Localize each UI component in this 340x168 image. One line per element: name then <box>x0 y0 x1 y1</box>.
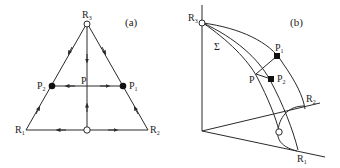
stable-point-p2-icon <box>49 83 56 90</box>
label-b-r1: R1 <box>297 153 307 165</box>
label-b-p1: P1 <box>275 42 284 54</box>
stable-point-p1-icon <box>274 53 280 59</box>
panel-a: R3 R1 R2 P P1 P2 (a) <box>15 9 160 136</box>
stable-point-p2-icon <box>268 76 274 82</box>
unstable-point-r3-icon <box>84 21 90 27</box>
segment-p-p1 <box>256 56 277 74</box>
label-a-r3: R3 <box>82 9 92 21</box>
label-a-r2: R2 <box>150 124 160 136</box>
axis-r1 <box>202 131 325 157</box>
label-b-p: P <box>249 74 255 85</box>
panel-b: R3 Σ P1 P2 P R2 R1 (b) <box>188 5 325 165</box>
arc-sigma <box>203 23 279 131</box>
unstable-point-bottom-icon <box>276 129 282 135</box>
label-b-r2: R2 <box>306 93 316 105</box>
panel-a-label: (a) <box>125 16 138 29</box>
unstable-point-r3-icon <box>199 20 205 26</box>
panel-b-label: (b) <box>290 16 303 29</box>
stable-point-p1-icon <box>120 83 127 90</box>
unstable-point-bottom-icon <box>84 127 90 133</box>
label-b-r3: R3 <box>188 12 198 24</box>
curve-r2-r1 <box>278 106 304 151</box>
label-a-p: P <box>81 75 87 86</box>
edge-r3-r1 <box>26 23 87 130</box>
arc-outer <box>203 23 305 109</box>
label-b-p2: P2 <box>277 73 286 85</box>
label-a-r1: R1 <box>15 124 25 136</box>
label-a-p2: P2 <box>37 80 46 92</box>
phase-diagram-figure: R3 R1 R2 P P1 P2 (a) R3 Σ P1 P2 P <box>0 0 340 168</box>
label-b-sigma: Σ <box>214 41 220 52</box>
edge-r3-r2 <box>87 23 148 130</box>
axis-r2 <box>202 103 320 131</box>
label-a-p1: P1 <box>129 80 138 92</box>
